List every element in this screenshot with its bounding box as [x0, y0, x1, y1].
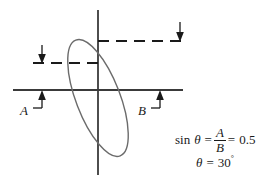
equals-sign-1: = [205, 132, 212, 147]
degree-symbol: ° [231, 154, 234, 163]
theta-value: 30 [218, 155, 231, 170]
arrow-up-b-icon [151, 90, 164, 108]
arrow-down-left-icon [38, 45, 46, 64]
sine-value: 0.5 [239, 132, 255, 147]
arrow-down-right-icon [176, 22, 184, 42]
figure-canvas: A B sinθ=AB=0.5 θ=30° [0, 0, 277, 183]
fraction-a-over-b: AB [214, 126, 226, 155]
theta-symbol-1: θ [194, 132, 200, 147]
arrow-up-a-icon [33, 90, 46, 108]
fraction-numerator: A [214, 126, 226, 141]
fraction-denominator: B [214, 141, 226, 155]
equation-sine: sinθ=AB=0.5 [175, 127, 255, 156]
sin-function: sin [175, 132, 190, 147]
equation-theta: θ=30° [196, 155, 234, 171]
equals-sign-2: = [228, 132, 235, 147]
label-a: A [20, 103, 28, 119]
label-b: B [138, 103, 146, 119]
theta-symbol-2: θ [196, 155, 202, 170]
equals-sign-3: = [206, 155, 213, 170]
